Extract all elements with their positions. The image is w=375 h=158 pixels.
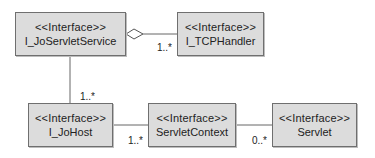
class-name: I_JoServletService [25,34,117,48]
class-name: I_JoHost [49,125,92,139]
stereotype-label: <<Interface>> [279,111,350,125]
stereotype-label: <<Interface>> [156,111,227,125]
multiplicity-servletcontext: 1..* [128,135,143,146]
class-servlet[interactable]: <<Interface>> Servlet [272,103,357,147]
class-i-johost[interactable]: <<Interface>> I_JoHost [28,103,113,147]
multiplicity-johost: 1..* [80,91,95,102]
stereotype-label: <<Interface>> [35,111,106,125]
class-name: I_TCPHandler [186,34,256,48]
class-name: Servlet [297,125,331,139]
class-i-tcphandler[interactable]: <<Interface>> I_TCPHandler [177,12,264,56]
multiplicity-tcphandler: 1..* [157,42,172,53]
multiplicity-servlet: 0..* [252,135,267,146]
stereotype-label: <<Interface>> [35,20,106,34]
class-name: ServletContext [156,125,228,139]
aggregation-diamond-icon [126,29,143,39]
stereotype-label: <<Interface>> [185,20,256,34]
class-servletcontext[interactable]: <<Interface>> ServletContext [148,103,236,147]
class-i-joservletservice[interactable]: <<Interface>> I_JoServletService [15,12,126,56]
